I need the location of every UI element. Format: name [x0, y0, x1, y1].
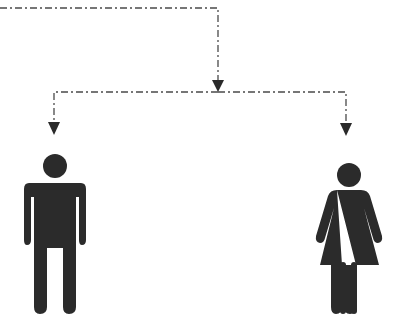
- man-icon: [24, 154, 86, 314]
- diagram-canvas: [0, 0, 405, 326]
- connector-branch-left: [48, 92, 218, 135]
- arrowhead-icon: [48, 122, 60, 135]
- woman-icon: [316, 163, 382, 314]
- connector-top-feed: [0, 8, 224, 92]
- arrowhead-icon: [212, 80, 224, 92]
- arrowhead-icon: [340, 123, 352, 136]
- connector-branch-right: [218, 92, 352, 136]
